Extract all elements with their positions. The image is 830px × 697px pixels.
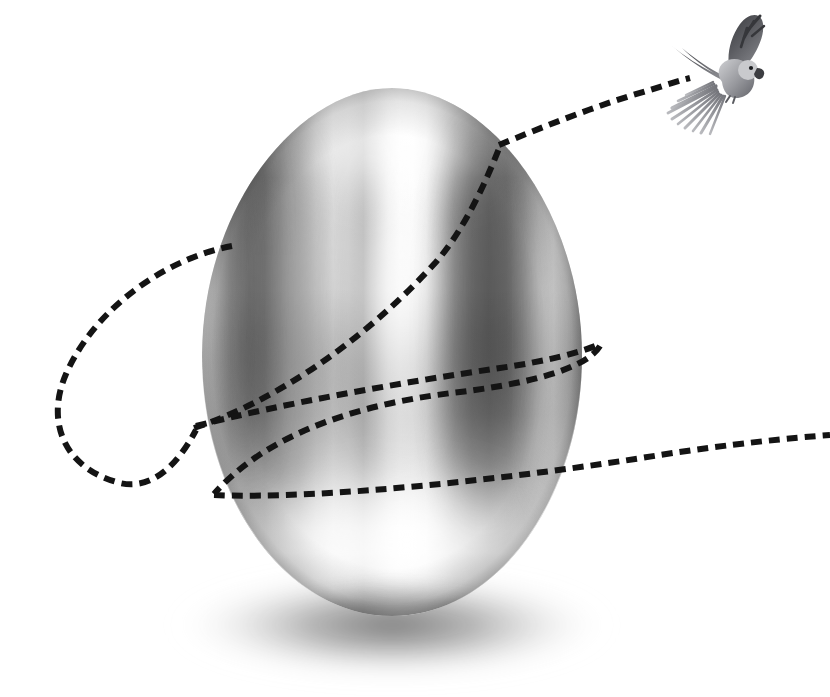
parrot-icon bbox=[668, 15, 764, 134]
parrot-eye bbox=[749, 66, 753, 70]
parrot-wing-far bbox=[672, 46, 724, 80]
parrot-head bbox=[738, 60, 758, 80]
illustration-canvas: Silver metallic egg with orbiting dashed… bbox=[0, 0, 830, 697]
parrot-layer bbox=[0, 0, 830, 697]
parrot-tail-feathers bbox=[668, 82, 725, 134]
